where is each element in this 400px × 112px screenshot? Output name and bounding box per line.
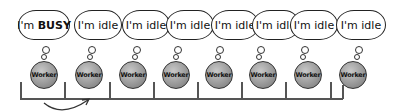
curved-arrow-icon [0, 0, 400, 112]
worker-pool-diagram: I'm BUSY I'm idle I'm idle I'm idle I'm … [0, 0, 400, 112]
